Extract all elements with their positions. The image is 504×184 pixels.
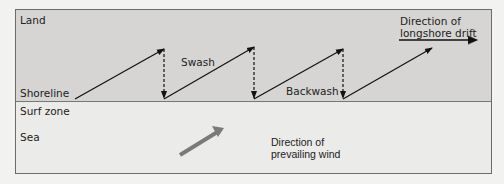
swash-arrow-3 <box>254 49 343 99</box>
diagram-frame: Land Shoreline Surf zone Sea Swash Backw… <box>15 9 492 174</box>
arrows-layer <box>16 10 492 174</box>
swash-arrow-1 <box>75 49 164 99</box>
prevailing-wind-arrow-icon <box>180 126 224 155</box>
swash-arrow-2 <box>164 47 254 99</box>
longshore-drift-arrow-icon <box>399 36 478 44</box>
swash-arrow-4 <box>343 48 432 99</box>
